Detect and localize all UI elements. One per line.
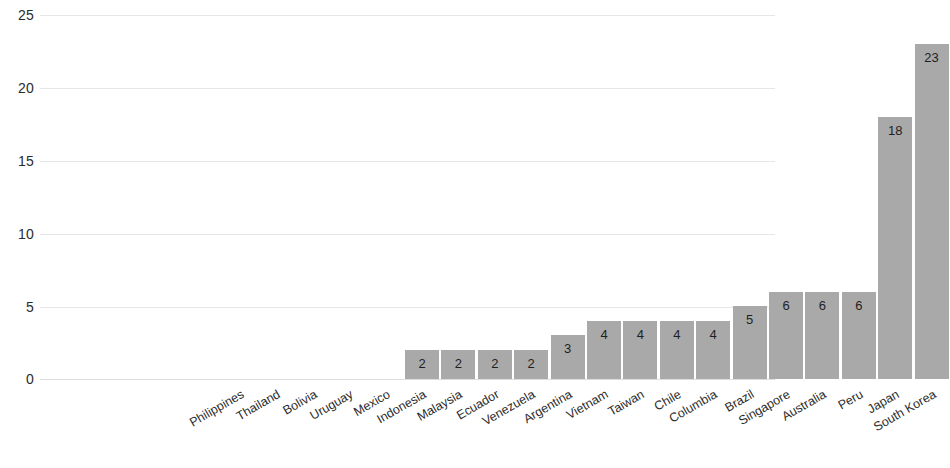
x-tick-slot: Argentina: [550, 384, 586, 468]
y-tick-label: 15: [0, 154, 34, 168]
bar-value-label: 2: [477, 357, 513, 370]
x-axis: PhilippinesThailandBoliviaUruguayMexicoI…: [40, 384, 775, 468]
x-tick-label: Peru: [836, 388, 865, 412]
x-tick-slot: Brazil: [732, 384, 768, 468]
x-tick-slot: Columbia: [695, 384, 731, 468]
plot-area: 22223444456661823: [40, 10, 775, 384]
x-tick-slot: Uruguay: [331, 384, 367, 468]
bar-value-label: 4: [622, 328, 658, 341]
y-tick-label: 20: [0, 81, 34, 95]
x-tick-slot: Australia: [804, 384, 840, 468]
bar[interactable]: [878, 117, 912, 379]
x-tick-slot: Ecuador: [477, 384, 513, 468]
bars-layer: 22223444456661823: [40, 10, 775, 384]
bar-value-label: 6: [768, 299, 804, 312]
bar-value-label: 18: [877, 124, 913, 137]
x-tick-slot: Thailand: [258, 384, 294, 468]
bar-value-label: 2: [440, 357, 476, 370]
bar-value-label: 23: [914, 51, 950, 64]
y-tick-label: 25: [0, 8, 34, 22]
x-tick-slot: Malaysia: [440, 384, 476, 468]
x-tick-slot: Taiwan: [622, 384, 658, 468]
x-tick-slot: Peru: [841, 384, 877, 468]
x-tick-slot: South Korea: [914, 384, 950, 468]
bar-value-label: 4: [659, 328, 695, 341]
bar-value-label: 5: [732, 313, 768, 326]
y-tick-label: 10: [0, 227, 34, 241]
bar-value-label: 2: [513, 357, 549, 370]
x-tick-slot: Indonesia: [404, 384, 440, 468]
x-tick-slot: Venezuela: [513, 384, 549, 468]
x-tick-slot: Chile: [659, 384, 695, 468]
x-tick-slot: Vietnam: [586, 384, 622, 468]
x-tick-slot: Bolivia: [295, 384, 331, 468]
x-tick-slot: Mexico: [368, 384, 404, 468]
bar-value-label: 6: [841, 299, 877, 312]
y-axis: 25 20 15 10 5 0: [0, 10, 34, 384]
bar-value-label: 3: [550, 342, 586, 355]
bar-value-label: 4: [695, 328, 731, 341]
bar-value-label: 2: [404, 357, 440, 370]
bar[interactable]: [915, 44, 949, 379]
x-tick-slot: Singapore: [768, 384, 804, 468]
x-tick-slot: Philippines: [222, 384, 258, 468]
bar-value-label: 6: [804, 299, 840, 312]
bar-value-label: 4: [586, 328, 622, 341]
y-tick-label: 5: [0, 300, 34, 314]
y-tick-label: 0: [0, 372, 34, 386]
